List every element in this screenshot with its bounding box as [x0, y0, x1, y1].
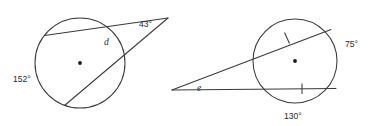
left-figure: 43° d 152°	[13, 18, 168, 108]
right-figure: e 75° 130°	[172, 19, 358, 121]
right-bottom-arc-label: 130°	[284, 111, 302, 121]
diagram-canvas: 43° d 152° e 75° 130°	[0, 0, 379, 126]
left-far-arc-label: 152°	[13, 74, 31, 84]
right-arc-label: 75°	[345, 39, 358, 49]
right-vertex-angle-label: e	[197, 82, 202, 93]
congruence-tick-upper-icon	[285, 33, 290, 44]
left-apex-angle-label: 43°	[139, 19, 152, 29]
right-upper-secant	[172, 30, 331, 91]
geometry-diagram: 43° d 152° e 75° 130°	[0, 0, 379, 126]
left-circle-center-dot	[78, 61, 82, 65]
left-arc-variable-label: d	[104, 36, 109, 47]
right-circle-center-dot	[293, 59, 297, 63]
